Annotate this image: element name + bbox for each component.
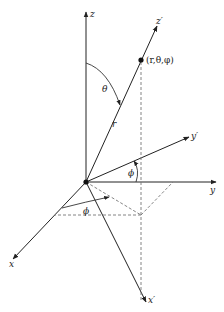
projection-to-y-dashed: [141, 182, 173, 215]
phi-upper-label: ϕ: [128, 169, 134, 178]
y-prime-axis-label: y′: [191, 132, 198, 141]
phi-upper-arc: [134, 161, 138, 182]
point-label: (r,θ,φ): [146, 56, 174, 65]
x-axis: [13, 182, 86, 259]
phi-lower-label: ϕ: [83, 207, 89, 216]
theta-label: θ: [102, 85, 107, 94]
r-label: r: [112, 120, 116, 129]
x-axis-label: x: [9, 260, 14, 269]
y-axis-label: y: [210, 186, 215, 195]
point-marker: [138, 57, 143, 62]
spherical-coordinates-diagram: [0, 0, 224, 312]
z-prime-axis: [86, 26, 157, 182]
origin-marker: [83, 179, 88, 184]
x-prime-axis-label: x′: [148, 296, 155, 305]
z-prime-axis-label: z′: [156, 17, 163, 26]
z-axis-label: z: [90, 10, 95, 19]
